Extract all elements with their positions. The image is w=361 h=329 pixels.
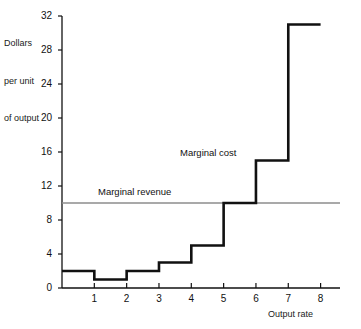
x-tick-label: 6 bbox=[248, 294, 264, 304]
x-tick-label: 2 bbox=[119, 294, 135, 304]
y-tick-label: 32 bbox=[30, 11, 52, 21]
chart-figure: Dollars per unit of output Output rate M… bbox=[0, 0, 361, 329]
plot-area bbox=[0, 0, 361, 329]
y-tick-label: 16 bbox=[30, 147, 52, 157]
y-tick-label: 24 bbox=[30, 79, 52, 89]
y-tick-label: 20 bbox=[30, 113, 52, 123]
y-tick-label: 4 bbox=[30, 249, 52, 259]
x-tick-label: 4 bbox=[183, 294, 199, 304]
x-axis bbox=[62, 283, 340, 288]
x-axis-ticks bbox=[94, 283, 320, 288]
x-tick-label: 3 bbox=[151, 294, 167, 304]
y-tick-label: 12 bbox=[30, 181, 52, 191]
y-axis bbox=[58, 16, 62, 288]
marginal-cost-step-line bbox=[62, 25, 321, 280]
x-tick-label: 5 bbox=[216, 294, 232, 304]
y-tick-label: 28 bbox=[30, 45, 52, 55]
y-tick-label: 8 bbox=[30, 215, 52, 225]
x-tick-label: 8 bbox=[313, 294, 329, 304]
x-tick-label: 7 bbox=[280, 294, 296, 304]
y-tick-label: 0 bbox=[30, 283, 52, 293]
x-tick-label: 1 bbox=[86, 294, 102, 304]
